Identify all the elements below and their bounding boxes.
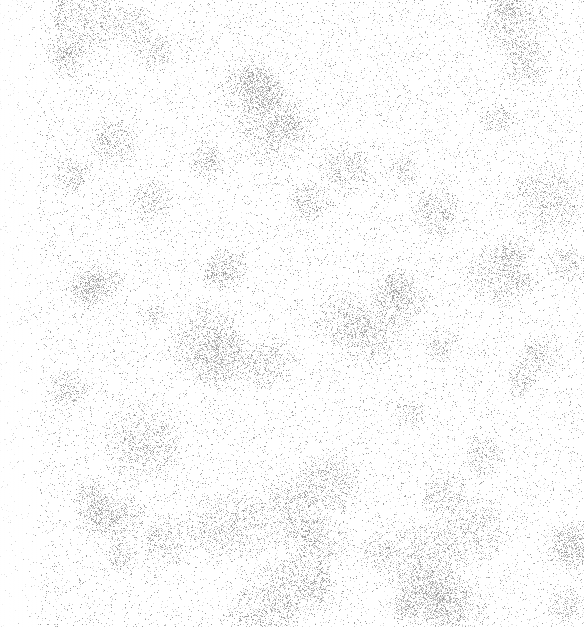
- speckled-texture: [0, 0, 584, 627]
- texture-canvas: [0, 0, 584, 627]
